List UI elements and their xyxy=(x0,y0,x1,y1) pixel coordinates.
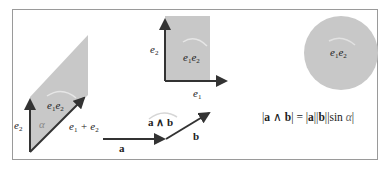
e1-plus-e2-label: e1 + e2 xyxy=(69,121,99,134)
square-bivector xyxy=(165,16,226,81)
parallelogram-bivector xyxy=(30,35,88,152)
parallelogram-area-label: e1e2 xyxy=(47,100,64,113)
wedge-label: a ∧ b xyxy=(148,117,173,128)
alpha-label: α xyxy=(39,119,45,130)
diagram-canvas xyxy=(0,0,392,171)
square-e1-label: e1 xyxy=(193,88,201,101)
square-area-label: e1e2 xyxy=(183,52,200,65)
a-label: a xyxy=(119,143,125,154)
circle-area-label: e1e2 xyxy=(330,47,347,60)
b-label: b xyxy=(193,131,199,142)
square-e2-label: e2 xyxy=(150,44,158,57)
e2-label: e2 xyxy=(14,120,22,133)
wedge-magnitude-formula: |a ∧ b| = |a||b||sin α| xyxy=(262,110,354,124)
